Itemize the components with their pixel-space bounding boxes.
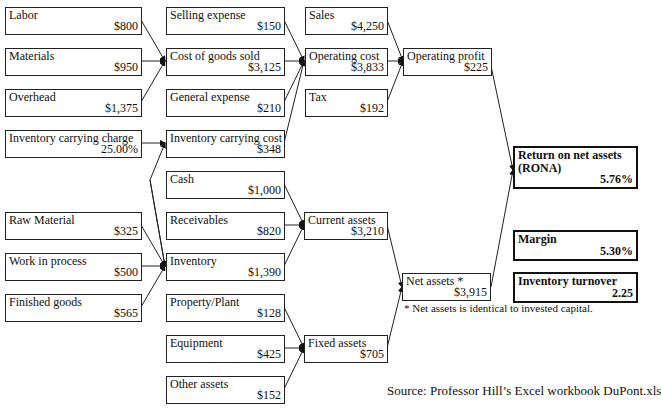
box-raw-material: Raw Material $325: [5, 212, 142, 240]
box-label: Cash: [170, 173, 194, 186]
box-value: $128: [257, 307, 281, 320]
box-value: 5.30%: [600, 245, 633, 258]
box-general-expense: General expense $210: [166, 89, 285, 117]
box-label: Tax: [309, 91, 327, 104]
box-margin: Margin 5.30%: [513, 230, 638, 261]
box-current-assets: Current assets $3,210: [304, 212, 388, 240]
box-value: $210: [257, 102, 281, 115]
box-label: Sales: [309, 9, 334, 22]
box-label: Labor: [9, 9, 38, 22]
box-work-in-process: Work in process $500: [5, 253, 142, 281]
box-labor: Labor $800: [5, 7, 142, 35]
box-value: $3,210: [351, 225, 384, 238]
box-label: Finished goods: [9, 296, 82, 309]
box-value: $1,375: [105, 102, 138, 115]
box-overhead: Overhead $1,375: [5, 89, 142, 117]
box-receivables: Receivables $820: [166, 212, 285, 240]
box-selling-expense: Selling expense $150: [166, 7, 285, 35]
box-net-assets: Net assets * $3,915: [402, 273, 491, 301]
box-value: $950: [114, 61, 138, 74]
box-operating-profit: Operating profit $225: [403, 48, 492, 76]
box-property-plant: Property/Plant $128: [166, 294, 285, 322]
box-other-assets: Other assets $152: [166, 376, 285, 404]
box-inventory-carrying-charge: Inventory carrying charge 25.00%: [5, 130, 142, 158]
box-materials: Materials $950: [5, 48, 142, 76]
box-inventory: Inventory $1,390: [166, 253, 285, 281]
box-value: $4,250: [351, 20, 384, 33]
box-value: 2.25: [612, 287, 633, 300]
box-value: $1,000: [248, 184, 281, 197]
box-value: $325: [114, 225, 138, 238]
box-value: $800: [114, 20, 138, 33]
box-value: $150: [257, 20, 281, 33]
box-rona: Return on net assets (RONA) 5.76%: [513, 146, 638, 189]
box-value: $820: [257, 225, 281, 238]
box-value: $500: [114, 266, 138, 279]
box-inventory-turnover: Inventory turnover 2.25: [513, 272, 638, 303]
box-finished-goods: Finished goods $565: [5, 294, 142, 322]
box-label: Other assets: [170, 378, 228, 391]
box-label: Selling expense: [170, 9, 246, 22]
box-value: $425: [257, 348, 281, 361]
box-value: $3,915: [454, 286, 487, 299]
box-tax: Tax $192: [305, 89, 388, 117]
source-note: Source: Professor Hill’s Excel workbook …: [387, 383, 661, 399]
box-label: Materials: [9, 50, 54, 63]
box-label: General expense: [170, 91, 250, 104]
box-value: $348: [257, 143, 281, 156]
box-value: $3,125: [248, 61, 281, 74]
box-sales: Sales $4,250: [305, 7, 388, 35]
box-label: Cost of goods sold: [170, 50, 260, 63]
box-fixed-assets: Fixed assets $705: [304, 335, 388, 363]
box-inventory-carrying-cost: Inventory carrying cost $348: [166, 130, 285, 158]
box-value: 5.76%: [600, 173, 633, 186]
box-cost-of-goods-sold: Cost of goods sold $3,125: [166, 48, 285, 76]
box-equipment: Equipment $425: [166, 335, 285, 363]
box-value: $152: [257, 389, 281, 402]
box-value: $192: [360, 102, 384, 115]
box-label: Receivables: [170, 214, 228, 227]
box-value: $225: [464, 61, 488, 74]
box-cash: Cash $1,000: [166, 171, 285, 199]
box-label: Equipment: [170, 337, 223, 350]
box-value: $1,390: [248, 266, 281, 279]
box-value: $705: [360, 348, 384, 361]
box-label: Property/Plant: [170, 296, 239, 309]
box-label: Work in process: [9, 255, 87, 268]
box-value: 25.00%: [101, 143, 138, 156]
box-operating-cost: Operating cost $3,833: [305, 48, 388, 76]
box-value: $565: [114, 307, 138, 320]
footnote: * Net assets is identical to invested ca…: [404, 302, 593, 314]
box-label: Inventory: [170, 255, 217, 268]
box-label: Overhead: [9, 91, 56, 104]
box-label: Fixed assets: [308, 337, 366, 350]
box-value: $3,833: [351, 61, 384, 74]
box-label: Raw Material: [9, 214, 75, 227]
